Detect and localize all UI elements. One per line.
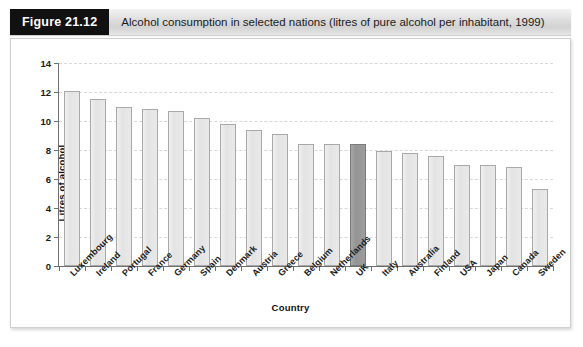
chart-frame: Litres of alcohol 02468101214 Luxembourg… [10, 38, 571, 328]
y-tick-label: 4 [46, 203, 51, 214]
bar-germany [168, 111, 183, 266]
bar-australia [402, 153, 417, 266]
bar-belgium [298, 144, 313, 266]
bar-greece [272, 134, 287, 266]
y-tick-label: 14 [40, 58, 51, 69]
y-tick-label: 6 [46, 174, 51, 185]
figure-container: Figure 21.12 Alcohol consumption in sele… [0, 0, 583, 347]
bar-japan [480, 165, 495, 267]
y-tick-label: 10 [40, 116, 51, 127]
bar-portugal [116, 107, 131, 267]
figure-header-banner: Figure 21.12 Alcohol consumption in sele… [10, 9, 571, 35]
bar-italy [376, 151, 391, 266]
x-axis-title: Country [11, 302, 570, 313]
x-tick-mark [371, 266, 372, 271]
figure-number-label: Figure 21.12 [10, 9, 109, 35]
bar-canada [506, 167, 521, 266]
figure-caption: Alcohol consumption in selected nations … [109, 9, 544, 35]
y-tick-label: 2 [46, 232, 51, 243]
y-tick-label: 0 [46, 261, 51, 272]
plot-area: 02468101214 LuxembourgIrelandPortugalFra… [58, 63, 553, 267]
y-tick-label: 12 [40, 87, 51, 98]
y-tick-label: 8 [46, 145, 51, 156]
bar-denmark [220, 124, 235, 266]
bars-layer [59, 63, 553, 266]
x-tick-mark [59, 266, 60, 271]
bar-luxembourg [64, 91, 79, 266]
bar-france [142, 109, 157, 266]
